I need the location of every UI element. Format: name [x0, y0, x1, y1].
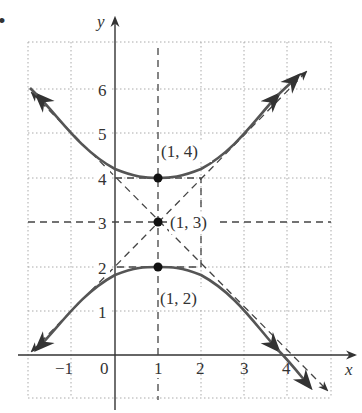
- y-axis-label: y: [95, 12, 105, 31]
- svg-text:2: 2: [196, 359, 205, 378]
- point-1-2: [154, 263, 163, 272]
- svg-text:6: 6: [98, 81, 107, 100]
- svg-text:−1: −1: [55, 359, 73, 378]
- svg-text:5: 5: [98, 125, 107, 144]
- svg-text:4: 4: [98, 170, 107, 189]
- label-point-1-3: (1, 3): [170, 213, 207, 232]
- svg-text:4: 4: [282, 359, 291, 378]
- svg-text:1: 1: [154, 359, 163, 378]
- x-tick-labels: −1 0 1 2 3 4: [55, 359, 291, 378]
- point-1-3: [154, 218, 163, 227]
- svg-text:1: 1: [98, 303, 107, 322]
- item-marker: •: [0, 8, 6, 33]
- svg-text:3: 3: [240, 359, 249, 378]
- x-axis-label: x: [344, 360, 353, 379]
- svg-text:0: 0: [100, 359, 109, 378]
- label-point-1-2: (1, 2): [160, 289, 197, 308]
- svg-text:3: 3: [98, 214, 107, 233]
- hyperbola-graph: •: [0, 0, 362, 413]
- label-point-1-4: (1, 4): [161, 142, 198, 161]
- svg-text:2: 2: [98, 259, 107, 278]
- point-1-4: [154, 174, 163, 183]
